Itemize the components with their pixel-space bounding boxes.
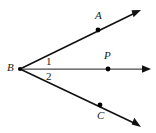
point-label-a: A [95, 10, 102, 21]
ray-ba [20, 10, 141, 69]
point-b-dot [18, 67, 22, 71]
ray-ba-arrowhead [132, 10, 142, 17]
ray-bc-arrowhead [132, 118, 141, 127]
angle-label-2: 2 [46, 71, 52, 82]
point-a-dot [96, 28, 101, 33]
ray-bp [20, 65, 151, 73]
ray-bc-line [20, 69, 134, 123]
point-p-dot [106, 67, 111, 72]
ray-bp-arrowhead [142, 65, 151, 73]
angle-diagram-figure: B A P C 1 2 [0, 0, 156, 133]
ray-ba-line [20, 14, 134, 70]
point-label-c: C [97, 110, 104, 121]
angle-label-1: 1 [46, 56, 52, 67]
point-c-dot [98, 103, 103, 108]
point-label-b: B [7, 62, 14, 73]
ray-bc [20, 69, 141, 127]
diagram-canvas [0, 0, 156, 133]
point-label-p: P [104, 50, 111, 61]
